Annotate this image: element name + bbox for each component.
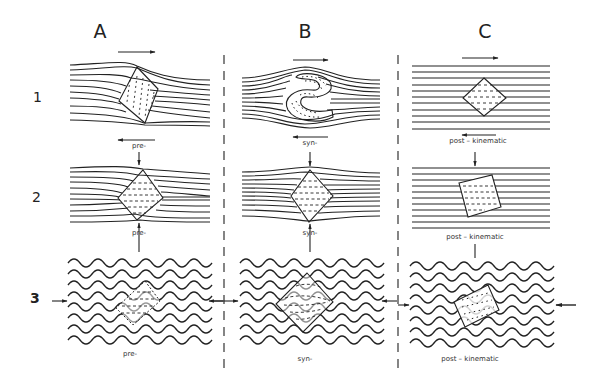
caption-b3: syn- [298,355,313,363]
row-heading-3: 3 [30,290,40,306]
caption-c2: post – kinematic [446,233,503,241]
porphyroblast-diagram [0,0,603,388]
row-heading-1: 1 [33,89,42,105]
panel-b1 [242,60,380,137]
caption-a2: pre- [132,229,146,237]
panel-a2 [70,152,210,252]
panel-b2 [242,152,380,252]
caption-b1: syn- [303,139,318,147]
panel-b3 [211,259,397,344]
caption-c3: post – kinematic [441,355,498,363]
panel-c3 [398,262,576,347]
porphyroblast [459,175,501,217]
caption-a3: pre- [123,350,137,358]
column-heading-b: B [298,20,311,42]
panel-c1 [412,58,550,135]
caption-a1: pre- [132,142,146,150]
panel-a1 [70,52,210,140]
porphyroblast [454,285,499,327]
column-heading-a: A [94,20,107,42]
row-heading-2: 2 [32,189,41,205]
caption-b2: syn- [303,229,318,237]
panel-a3 [52,259,223,344]
caption-c1: post – kinematic [449,137,506,145]
porphyroblast [119,67,158,123]
porphyroblast [291,170,333,222]
panel-c2 [412,152,550,258]
column-heading-c: C [478,20,491,42]
